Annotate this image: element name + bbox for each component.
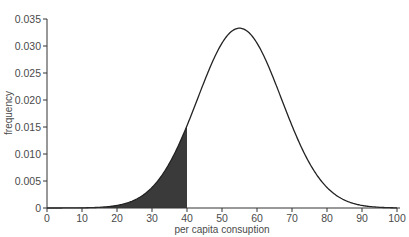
x-tick-label: 10 <box>76 212 88 224</box>
x-tick-label: 30 <box>146 212 158 224</box>
chart: 00.0050.0100.0150.0200.0250.0300.035 010… <box>0 0 409 237</box>
shaded-tail-area <box>47 126 187 208</box>
y-tick-label: 0.010 <box>15 148 41 160</box>
x-tick-label: 70 <box>286 212 298 224</box>
density-curve <box>47 28 397 208</box>
y-axis-title: frequency <box>3 91 14 135</box>
y-tick-label: 0.005 <box>15 175 41 187</box>
y-tick-label: 0.035 <box>15 13 41 25</box>
x-tick-label: 100 <box>388 212 406 224</box>
x-tick-label: 90 <box>356 212 368 224</box>
y-tick-label: 0.020 <box>15 94 41 106</box>
x-tick-label: 40 <box>181 212 193 224</box>
y-tick-label: 0 <box>35 202 41 214</box>
x-tick-label: 20 <box>111 212 123 224</box>
y-tick-label: 0.030 <box>15 40 41 52</box>
x-tick-label: 60 <box>251 212 263 224</box>
plot-area <box>47 28 397 208</box>
x-axis: 0102030405060708090100 <box>44 208 406 224</box>
y-tick-label: 0.025 <box>15 67 41 79</box>
y-tick-label: 0.015 <box>15 121 41 133</box>
x-tick-label: 80 <box>321 212 333 224</box>
y-axis: 00.0050.0100.0150.0200.0250.0300.035 <box>15 13 47 214</box>
x-tick-label: 50 <box>216 212 228 224</box>
x-tick-label: 0 <box>44 212 50 224</box>
x-axis-title: per capita consuption <box>174 224 269 235</box>
